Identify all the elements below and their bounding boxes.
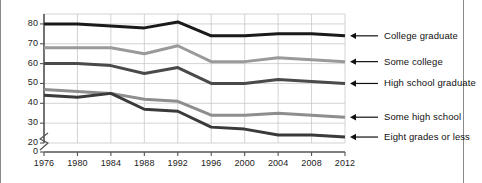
series-legend-label: Eight grades or less [384, 131, 470, 142]
legend-arrow-head-icon [350, 58, 356, 64]
series-legend-label: Some college [384, 56, 443, 67]
y-axis-tick-label: 0 [10, 146, 38, 156]
series-legend-label: Some high school [384, 111, 461, 122]
legend-arrow-head-icon [350, 33, 356, 39]
line-chart [0, 0, 482, 183]
y-axis-tick-label: 30 [10, 117, 38, 127]
legend-arrow-head-icon [350, 80, 356, 86]
series-legend-label: College graduate [384, 30, 458, 41]
x-axis-tick-label: 2012 [325, 158, 365, 168]
y-axis-tick-label: 80 [10, 18, 38, 28]
data-series-group [44, 22, 345, 137]
y-axis-tick-label: 20 [10, 137, 38, 147]
legend-arrow-group [350, 33, 378, 141]
y-axis-tick-label: 60 [10, 58, 38, 68]
y-axis-tick-label: 70 [10, 38, 38, 48]
legend-arrow-head-icon [350, 134, 356, 140]
chart-page: 020304050607080 197619801984198819921996… [0, 0, 482, 183]
series-line [44, 46, 345, 62]
y-axis-tick-label: 50 [10, 77, 38, 87]
legend-arrow-head-icon [350, 114, 356, 120]
y-axis-tick-label: 40 [10, 97, 38, 107]
series-legend-label: High school graduate [384, 77, 476, 88]
axis-break-icon [40, 133, 48, 150]
series-line [44, 64, 345, 84]
